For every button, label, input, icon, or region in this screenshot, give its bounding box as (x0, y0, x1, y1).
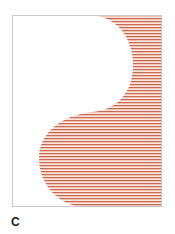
striped-s-curve-figure (0, 0, 175, 234)
panel-label: C (11, 215, 20, 229)
